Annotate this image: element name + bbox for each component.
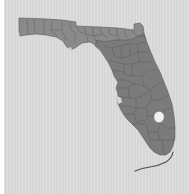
state-outline-peninsula (95, 34, 175, 155)
lake-okeechobee (154, 112, 164, 123)
coastal-island (68, 47, 72, 51)
florida-county-map (0, 0, 190, 194)
florida-keys (135, 152, 173, 171)
